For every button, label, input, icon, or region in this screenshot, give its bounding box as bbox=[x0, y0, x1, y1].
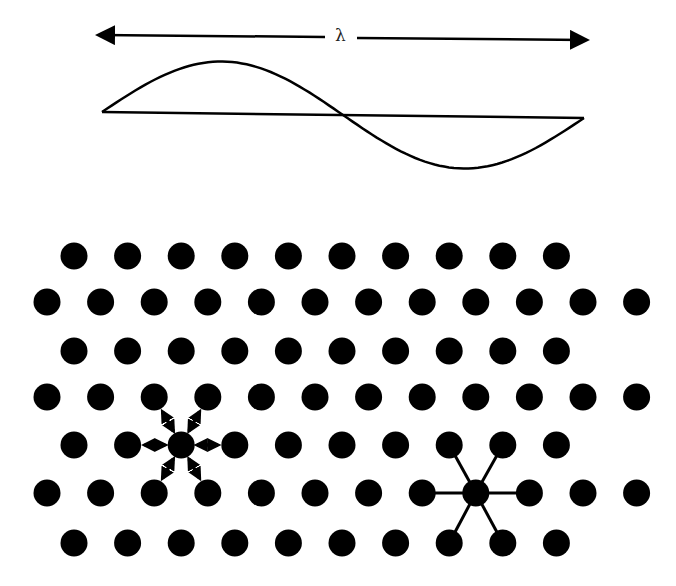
wavelength-label: λ bbox=[335, 25, 346, 45]
atom-dot bbox=[329, 530, 356, 557]
atom-dot bbox=[141, 480, 168, 507]
atom-dot bbox=[436, 338, 463, 365]
atom-dot bbox=[34, 480, 61, 507]
atom-dot bbox=[168, 530, 195, 557]
vibration-arrow bbox=[163, 412, 174, 431]
vibration-arrow bbox=[163, 459, 174, 478]
atom-dot bbox=[221, 432, 248, 459]
lattice-annotations bbox=[145, 412, 530, 543]
atom-dot bbox=[570, 289, 597, 316]
atom-dot bbox=[275, 243, 302, 270]
atom-dot bbox=[462, 384, 489, 411]
atom-dot bbox=[623, 289, 650, 316]
atom-lattice bbox=[34, 243, 651, 557]
atom-dot bbox=[61, 432, 88, 459]
atom-dot bbox=[543, 432, 570, 459]
atom-dot bbox=[436, 243, 463, 270]
atom-dot bbox=[302, 289, 329, 316]
atom-dot bbox=[329, 432, 356, 459]
atom-dot bbox=[355, 289, 382, 316]
atom-dot bbox=[409, 289, 436, 316]
atom-dot bbox=[141, 289, 168, 316]
wavelength-figure bbox=[100, 35, 585, 169]
sine-wave bbox=[102, 62, 584, 169]
atom-dot bbox=[543, 338, 570, 365]
bond-line bbox=[449, 493, 476, 543]
atom-dot bbox=[61, 530, 88, 557]
atom-dot bbox=[302, 384, 329, 411]
atom-dot bbox=[409, 384, 436, 411]
atom-dot bbox=[168, 243, 195, 270]
wavelength-arrow-right bbox=[357, 38, 585, 40]
atom-dot bbox=[275, 432, 302, 459]
atom-dot bbox=[329, 243, 356, 270]
atom-dot bbox=[168, 338, 195, 365]
atom-dot bbox=[516, 384, 543, 411]
atom-dot bbox=[382, 338, 409, 365]
atom-dot bbox=[355, 384, 382, 411]
atom-dot bbox=[489, 338, 516, 365]
atom-dot bbox=[516, 289, 543, 316]
atom-dot bbox=[623, 384, 650, 411]
atom-dot bbox=[221, 338, 248, 365]
atom-dot bbox=[221, 243, 248, 270]
atom-dot bbox=[168, 432, 195, 459]
atom-dot bbox=[382, 530, 409, 557]
atom-dot bbox=[87, 289, 114, 316]
atom-dot bbox=[194, 384, 221, 411]
atom-dot bbox=[382, 432, 409, 459]
atom-dot bbox=[543, 243, 570, 270]
atom-dot bbox=[141, 384, 168, 411]
atom-dot bbox=[302, 480, 329, 507]
atom-dot bbox=[87, 480, 114, 507]
bond-line bbox=[449, 445, 476, 493]
wavelength-arrow-left bbox=[100, 35, 325, 37]
atom-dot bbox=[543, 530, 570, 557]
atom-dot bbox=[275, 338, 302, 365]
atom-dot bbox=[114, 530, 141, 557]
atom-dot bbox=[34, 384, 61, 411]
atom-dot bbox=[114, 432, 141, 459]
atom-dot bbox=[489, 243, 516, 270]
atom-dot bbox=[462, 289, 489, 316]
atom-dot bbox=[87, 384, 114, 411]
atom-dot bbox=[355, 480, 382, 507]
vibration-arrow bbox=[189, 459, 200, 478]
atom-dot bbox=[570, 480, 597, 507]
atom-dot bbox=[114, 243, 141, 270]
atom-dot bbox=[194, 480, 221, 507]
diagram-canvas bbox=[0, 0, 676, 586]
atom-dot bbox=[570, 384, 597, 411]
atom-dot bbox=[623, 480, 650, 507]
vibration-arrow bbox=[189, 412, 200, 431]
atom-dot bbox=[329, 338, 356, 365]
bond-line bbox=[476, 445, 503, 493]
atom-dot bbox=[114, 338, 141, 365]
atom-dot bbox=[194, 289, 221, 316]
atom-dot bbox=[61, 338, 88, 365]
atom-dot bbox=[382, 243, 409, 270]
atom-dot bbox=[34, 289, 61, 316]
atom-dot bbox=[248, 289, 275, 316]
bond-line bbox=[476, 493, 503, 543]
atom-dot bbox=[221, 530, 248, 557]
atom-dot bbox=[61, 243, 88, 270]
atom-dot bbox=[275, 530, 302, 557]
atom-dot bbox=[248, 384, 275, 411]
atom-dot bbox=[248, 480, 275, 507]
